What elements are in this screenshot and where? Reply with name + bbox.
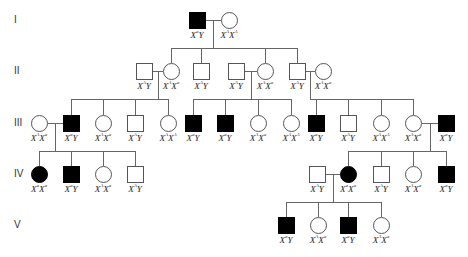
child-line xyxy=(381,151,382,166)
descent-line xyxy=(333,174,334,202)
genotype-label: XAXA xyxy=(372,133,389,143)
generation-label: I xyxy=(14,14,17,25)
generation-label: III xyxy=(14,117,22,128)
child-line xyxy=(135,99,136,115)
genotype-label: XAY xyxy=(128,184,142,194)
generation-label: IV xyxy=(14,168,23,179)
descent-line xyxy=(310,71,311,99)
child-line xyxy=(413,99,414,115)
child-line xyxy=(171,48,172,63)
child-line xyxy=(135,151,136,166)
genotype-label: XaY xyxy=(439,184,452,194)
genotype-label: XAY xyxy=(374,184,388,194)
genotype-label: XAY xyxy=(290,81,304,91)
genotype-label: XAY xyxy=(310,184,324,194)
unaffected-female-symbol xyxy=(315,63,332,80)
genotype-label: XAXA xyxy=(159,133,176,143)
child-line xyxy=(258,99,259,115)
affected-female-symbol xyxy=(31,166,48,183)
affected-female-symbol xyxy=(340,166,357,183)
genotype-label: XAXa xyxy=(373,235,390,245)
genotype-label: XAY xyxy=(341,133,355,143)
genotype-label: XAXA xyxy=(220,30,237,40)
sibship-line xyxy=(71,99,169,100)
pedigree-chart: IIIIIIIVVXaYXAXAXAYXAXaXAYXAYXAXaXAYXAXa… xyxy=(0,0,468,257)
child-line xyxy=(318,202,319,217)
affected-male-symbol xyxy=(438,115,455,132)
sibship-line xyxy=(193,99,292,100)
genotype-label: XAXa xyxy=(405,133,422,143)
genotype-label: XAXa xyxy=(95,133,112,143)
unaffected-female-symbol xyxy=(283,115,300,132)
genotype-label: XAY xyxy=(137,81,151,91)
child-line xyxy=(225,99,226,115)
unaffected-female-symbol xyxy=(310,217,327,234)
unaffected-female-symbol xyxy=(250,115,267,132)
genotype-label: XAXa xyxy=(95,184,112,194)
child-line xyxy=(297,48,298,63)
affected-male-symbol xyxy=(340,217,357,234)
sibship-line xyxy=(286,202,382,203)
genotype-label: XAXA xyxy=(282,133,299,143)
genotype-label: XAY xyxy=(128,133,142,143)
child-line xyxy=(446,151,447,166)
child-line xyxy=(413,151,414,166)
child-line xyxy=(71,151,72,166)
unaffected-male-symbol xyxy=(136,63,153,80)
child-line xyxy=(348,99,349,115)
affected-male-symbol xyxy=(308,115,325,132)
affected-male-symbol xyxy=(217,115,234,132)
descent-line xyxy=(55,123,56,151)
genotype-label: XaY xyxy=(64,184,77,194)
unaffected-female-symbol xyxy=(163,63,180,80)
genotype-label: XAXa xyxy=(310,235,327,245)
unaffected-male-symbol xyxy=(309,166,326,183)
unaffected-male-symbol xyxy=(340,115,357,132)
sibship-line xyxy=(39,151,136,152)
unaffected-female-symbol xyxy=(405,166,422,183)
unaffected-female-symbol xyxy=(31,115,48,132)
genotype-label: XaY xyxy=(279,235,292,245)
affected-male-symbol xyxy=(63,166,80,183)
sibship-line xyxy=(171,48,298,49)
generation-label: II xyxy=(14,65,20,76)
child-line xyxy=(348,151,349,166)
descent-line xyxy=(251,71,252,99)
unaffected-female-symbol xyxy=(405,115,422,132)
child-line xyxy=(316,99,317,115)
child-line xyxy=(265,48,266,63)
affected-male-symbol xyxy=(63,115,80,132)
unaffected-male-symbol xyxy=(127,115,144,132)
child-line xyxy=(286,202,287,217)
child-line xyxy=(381,99,382,115)
unaffected-female-symbol xyxy=(221,12,238,29)
genotype-label: XaXa xyxy=(31,184,47,194)
genotype-label: XaY xyxy=(190,30,203,40)
child-line xyxy=(348,202,349,217)
sibship-line xyxy=(348,151,447,152)
unaffected-female-symbol xyxy=(160,115,177,132)
child-line xyxy=(291,99,292,115)
unaffected-female-symbol xyxy=(95,115,112,132)
genotype-label: XaY xyxy=(341,235,354,245)
child-line xyxy=(381,202,382,217)
unaffected-male-symbol xyxy=(127,166,144,183)
genotype-label: XaY xyxy=(64,133,77,143)
generation-label: V xyxy=(14,219,21,230)
descent-line xyxy=(213,20,214,48)
unaffected-female-symbol xyxy=(95,166,112,183)
unaffected-female-symbol xyxy=(373,115,390,132)
unaffected-male-symbol xyxy=(193,63,210,80)
genotype-label: XAY xyxy=(194,81,208,91)
affected-male-symbol xyxy=(185,115,202,132)
affected-male-symbol xyxy=(438,166,455,183)
child-line xyxy=(201,48,202,63)
genotype-label: XAXa xyxy=(405,184,422,194)
unaffected-male-symbol xyxy=(289,63,306,80)
genotype-label: XaY xyxy=(309,133,322,143)
unaffected-male-symbol xyxy=(373,166,390,183)
genotype-label: XAXa xyxy=(250,133,267,143)
descent-line xyxy=(158,71,159,99)
descent-line xyxy=(430,123,431,151)
child-line xyxy=(193,99,194,115)
